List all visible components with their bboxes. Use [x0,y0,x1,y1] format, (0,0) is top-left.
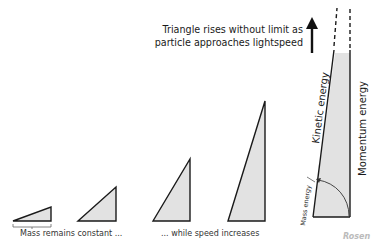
caption-speed-increases: ... while speed increases [161,229,259,238]
triangle-2 [78,187,116,221]
triangle-1 [13,207,51,221]
momentum-energy-label: Momentum energy [357,81,368,176]
mass-label-tick [307,177,315,182]
mass-energy-label: Mass energy [299,184,313,226]
triangle-4 [228,101,265,221]
triangle-3 [153,159,190,221]
kinetic-dashed-continuation [334,8,337,46]
energy-triangle-diagram: Triangle rises without limit as particle… [0,0,381,249]
up-arrow-icon [306,17,318,29]
rosen-logo: Rosen [343,232,370,241]
headline-line-1: Triangle rises without limit as [162,24,303,35]
caption-mass-constant: Mass remains constant ... [20,229,122,238]
headline-line-2: particle approaches lightspeed [155,37,303,48]
